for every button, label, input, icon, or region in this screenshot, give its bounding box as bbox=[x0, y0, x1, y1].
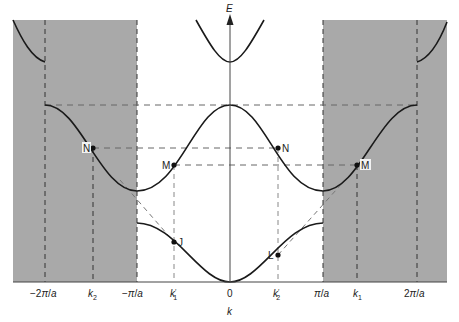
e-axis-label: E bbox=[226, 3, 233, 14]
svg-text:0: 0 bbox=[227, 288, 233, 299]
svg-text:N: N bbox=[83, 143, 90, 154]
svg-text:−2π/a: −2π/a bbox=[30, 288, 57, 299]
x-tick-labels: −2π/a k2 −π/a k′1 0 k′2 π/a k1 2π/a bbox=[30, 288, 425, 301]
shaded-zone-left bbox=[13, 20, 137, 282]
svg-text:k′2: k′2 bbox=[273, 288, 280, 301]
svg-text:N: N bbox=[282, 143, 289, 154]
vertical-guides-light bbox=[174, 148, 278, 282]
band-structure-diagram: E k −2π/a k2 −π/a k′1 0 k′2 π/a k1 2π/a … bbox=[0, 0, 459, 322]
point-m-right bbox=[354, 162, 359, 167]
free-electron-dashed bbox=[120, 180, 345, 255]
point-n-right bbox=[275, 145, 280, 150]
k-axis-label: k bbox=[227, 306, 233, 317]
point-n-left bbox=[90, 145, 95, 150]
e-axis-arrow-icon bbox=[227, 14, 234, 25]
svg-text:k′1: k′1 bbox=[170, 288, 177, 301]
point-m-left bbox=[171, 162, 176, 167]
svg-text:k2: k2 bbox=[88, 288, 97, 301]
svg-text:L: L bbox=[268, 250, 274, 261]
point-j bbox=[171, 239, 176, 244]
svg-text:−π/a: −π/a bbox=[122, 288, 143, 299]
shaded-zone-right bbox=[323, 20, 447, 282]
svg-text:2π/a: 2π/a bbox=[404, 288, 425, 299]
svg-text:π/a: π/a bbox=[314, 288, 329, 299]
svg-text:M: M bbox=[361, 160, 369, 171]
svg-text:M: M bbox=[162, 160, 170, 171]
point-l bbox=[275, 252, 280, 257]
svg-text:J: J bbox=[178, 237, 183, 248]
svg-text:k1: k1 bbox=[353, 288, 362, 301]
